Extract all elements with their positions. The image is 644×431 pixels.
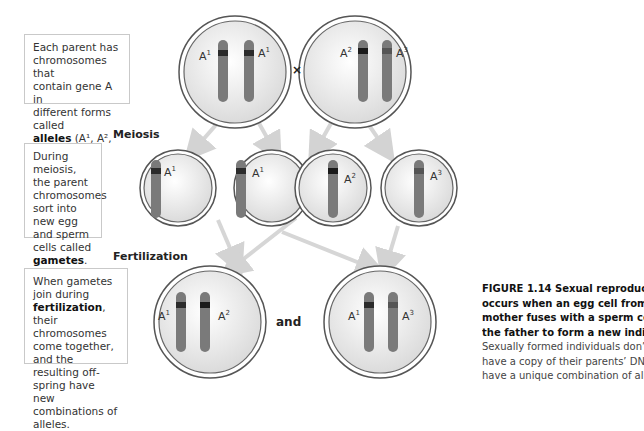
alleles-text-3: contain gene A in xyxy=(33,80,121,106)
gametes-term: gametes xyxy=(33,254,84,266)
alleles-text-2: chromosomes that xyxy=(33,54,121,80)
meiosis-text: During meiosis, the parent chromosomes s… xyxy=(33,150,107,253)
caption-title-line-4: the father to form a new individual. xyxy=(482,326,644,341)
meiosis-text-end: . xyxy=(84,254,87,266)
meiosis-label: Meiosis xyxy=(113,128,160,141)
parent-cell-1: A1 A1 xyxy=(179,16,291,128)
caption-title-line-1: FIGURE 1.14 Sexual reproduction xyxy=(482,282,644,297)
cross-symbol: × xyxy=(292,63,302,77)
caption-title-line-3: mother fuses with a sperm cell from xyxy=(482,311,644,326)
offspring-cell-1: A1 A2 xyxy=(154,266,266,378)
fertilization-label: Fertilization xyxy=(113,250,188,263)
and-label: and xyxy=(276,315,301,329)
fertilization-info-box: When gametes join during fertilization, … xyxy=(24,268,128,364)
gamete-cell-4: A3 xyxy=(381,150,457,226)
meiosis-info-box: During meiosis, the parent chromosomes s… xyxy=(24,143,102,238)
gamete-cell-1: A1 xyxy=(140,150,216,226)
caption-body-line-1: Sexually formed individuals don’t just xyxy=(482,340,644,355)
fertilization-term: fertilization xyxy=(33,301,102,313)
caption-body-line-3: have a unique combination of alleles. xyxy=(482,369,644,384)
caption-title-line-2: occurs when an egg cell from the xyxy=(482,297,644,312)
offspring-cell-2: A1 A3 xyxy=(324,266,436,378)
caption-body-line-2: have a copy of their parents’ DNA: they xyxy=(482,355,644,370)
alleles-info-box: Each parent has chromosomes that contain… xyxy=(24,34,130,104)
alleles-text-1: Each parent has xyxy=(33,41,121,54)
parent-cell-2: A2 A3 xyxy=(299,16,411,128)
alleles-text-4: different forms called xyxy=(33,106,121,132)
figure-caption: FIGURE 1.14 Sexual reproduction occurs w… xyxy=(482,282,644,384)
gamete-cell-3: A2 xyxy=(295,150,371,226)
fertilization-text-pre: When gametes join during xyxy=(33,275,112,300)
